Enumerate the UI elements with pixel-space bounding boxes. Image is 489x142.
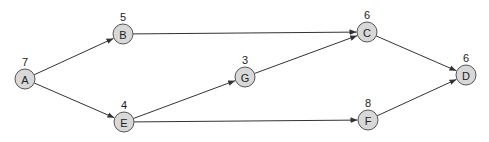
node-weight: 6 [463,52,469,64]
edge-a-to-b [34,38,113,74]
node-weight: 6 [364,9,370,21]
node-b: B5 [113,11,133,44]
edge-f-to-d [377,79,456,115]
node-label: D [462,70,470,82]
edge-a-to-e [34,83,114,118]
edge-g-to-c [254,36,357,74]
edge-b-to-c [133,32,357,34]
graph-canvas: A7B5E4G3C6F8D6 [0,0,489,142]
node-weight: 5 [120,11,126,23]
node-a: A7 [15,56,35,89]
node-g: G3 [235,54,255,87]
edge-e-to-f [134,120,358,122]
node-label: B [119,29,126,41]
node-label: F [365,115,372,127]
node-weight: 8 [365,97,371,109]
node-c: C6 [357,9,377,42]
node-label: A [21,74,29,86]
node-weight: 3 [242,54,248,66]
node-label: C [363,27,371,39]
edge-e-to-g [133,81,235,119]
edge-c-to-d [376,36,456,71]
nodes-layer: A7B5E4G3C6F8D6 [15,9,476,132]
node-e: E4 [114,99,134,132]
node-weight: 7 [22,56,28,68]
node-label: G [241,72,250,84]
node-label: E [120,117,127,129]
node-weight: 4 [121,99,127,111]
node-f: F8 [358,97,378,130]
node-d: D6 [456,52,476,85]
